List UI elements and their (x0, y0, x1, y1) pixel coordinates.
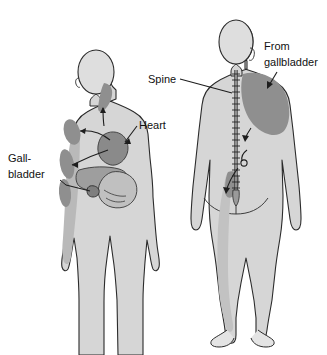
label-spine: Spine (148, 73, 176, 85)
label-gallbladder-line1: Gall- (8, 152, 32, 164)
anterior-gallbladder-organ (87, 186, 99, 197)
label-gallbladder-line2: bladder (8, 168, 45, 180)
anterior-heart-organ (98, 132, 128, 165)
label-from-line2: gallbladder (264, 56, 318, 68)
posterior-head (219, 20, 253, 64)
referred-pain-diagram: Gall- bladder Heart Spine From gallbladd… (0, 0, 327, 355)
label-from-line1: From (264, 40, 290, 52)
label-heart: Heart (139, 119, 166, 131)
diagram-svg: Gall- bladder Heart Spine From gallbladd… (0, 0, 327, 355)
